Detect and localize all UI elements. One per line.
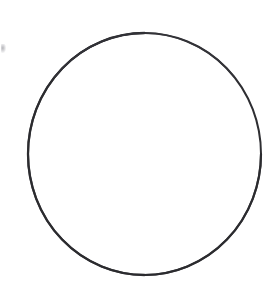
circle-figure [0, 0, 274, 285]
figure-background [0, 0, 274, 285]
figure-canvas [0, 0, 274, 285]
